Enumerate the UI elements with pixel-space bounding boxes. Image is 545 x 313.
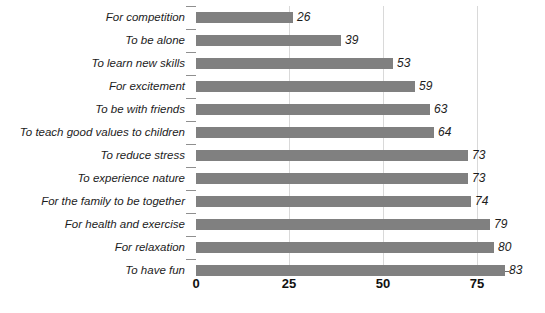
y-axis-tick bbox=[186, 29, 196, 30]
y-axis-tick bbox=[186, 75, 196, 76]
category-label: For health and exercise bbox=[0, 213, 185, 236]
bar bbox=[196, 219, 490, 230]
bar bbox=[196, 265, 505, 276]
y-axis-tick bbox=[186, 121, 196, 122]
y-axis-tick bbox=[186, 259, 196, 260]
bar-row: For competition26 bbox=[0, 6, 545, 29]
bar-row: To learn new skills53 bbox=[0, 52, 545, 75]
bar-row: For relaxation80 bbox=[0, 236, 545, 259]
bar-row: To be with friends63 bbox=[0, 98, 545, 121]
y-axis-tick bbox=[186, 6, 196, 7]
bar-value-label: 64 bbox=[438, 122, 451, 143]
bar-row: To experience nature73 bbox=[0, 167, 545, 190]
bar-rows: For competition26To be alone39To learn n… bbox=[0, 0, 545, 272]
bar-row: For health and exercise79 bbox=[0, 213, 545, 236]
bar-value-label: 79 bbox=[494, 214, 507, 235]
bar-value-label: 83 bbox=[509, 260, 522, 281]
y-axis-tick bbox=[186, 213, 196, 214]
category-label: To learn new skills bbox=[0, 52, 185, 75]
bar bbox=[196, 104, 430, 115]
bar bbox=[196, 12, 293, 23]
bar bbox=[196, 35, 341, 46]
bar-value-label: 63 bbox=[434, 99, 447, 120]
bar bbox=[196, 150, 468, 161]
bar-row: To be alone39 bbox=[0, 29, 545, 52]
category-label: To be alone bbox=[0, 29, 185, 52]
bar-value-label: 26 bbox=[297, 7, 310, 28]
bar-value-label: 74 bbox=[475, 191, 488, 212]
category-label: For the family to be together bbox=[0, 190, 185, 213]
y-axis-tick bbox=[186, 144, 196, 145]
category-label: To teach good values to children bbox=[0, 121, 185, 144]
bar bbox=[196, 81, 415, 92]
category-label: For relaxation bbox=[0, 236, 185, 259]
bar-value-label: 80 bbox=[498, 237, 511, 258]
category-label: For excitement bbox=[0, 75, 185, 98]
xtick-label-25: 25 bbox=[259, 276, 319, 291]
category-label: To be with friends bbox=[0, 98, 185, 121]
xtick-label-50: 50 bbox=[353, 276, 413, 291]
y-axis-tick bbox=[186, 236, 196, 237]
category-label: To experience nature bbox=[0, 167, 185, 190]
bar bbox=[196, 58, 393, 69]
category-label: For competition bbox=[0, 6, 185, 29]
bar-value-label: 53 bbox=[397, 53, 410, 74]
bar bbox=[196, 173, 468, 184]
bar-value-label: 59 bbox=[419, 76, 432, 97]
category-label: To have fun bbox=[0, 259, 185, 282]
xtick-label-0: 0 bbox=[166, 276, 226, 291]
bar-row: To teach good values to children64 bbox=[0, 121, 545, 144]
y-axis-tick bbox=[186, 190, 196, 191]
y-axis-tick bbox=[186, 52, 196, 53]
xtick-label-75: 75 bbox=[447, 276, 507, 291]
bar-row: For the family to be together74 bbox=[0, 190, 545, 213]
horizontal-bar-chart: For competition26To be alone39To learn n… bbox=[0, 0, 545, 313]
category-label: To reduce stress bbox=[0, 144, 185, 167]
y-axis-tick bbox=[186, 98, 196, 99]
bar-row: To reduce stress73 bbox=[0, 144, 545, 167]
bar-value-label: 39 bbox=[345, 30, 358, 51]
bar bbox=[196, 242, 494, 253]
y-axis-tick bbox=[186, 167, 196, 168]
bar-row: For excitement59 bbox=[0, 75, 545, 98]
bar bbox=[196, 127, 434, 138]
bar-value-label: 73 bbox=[472, 168, 485, 189]
bar bbox=[196, 196, 471, 207]
bar-value-label: 73 bbox=[472, 145, 485, 166]
